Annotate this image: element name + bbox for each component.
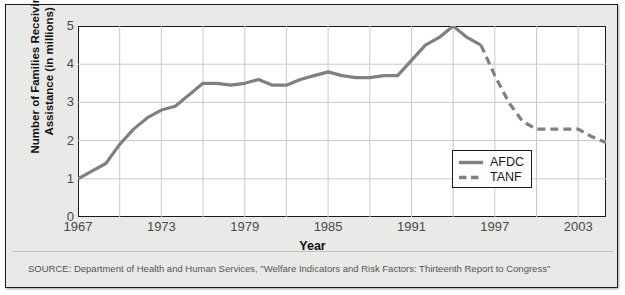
chart-panel: Number of Families Receiving Assistance … xyxy=(5,4,618,288)
y-tick-label: 5 xyxy=(48,19,74,32)
x-tick-label: 1979 xyxy=(230,220,259,233)
y-tick-label: 1 xyxy=(48,172,74,185)
y-axis-title-line1: Number of Families Receiving xyxy=(29,0,41,154)
x-tick-label: 1991 xyxy=(397,220,426,233)
y-tick-label: 3 xyxy=(48,95,74,108)
x-tick-label: 1997 xyxy=(480,220,509,233)
y-axis-tick-labels: 543210 xyxy=(46,26,74,217)
legend-swatch-tanf xyxy=(458,172,484,183)
legend-item-tanf: TANF xyxy=(458,170,526,185)
source-divider xyxy=(12,251,613,252)
y-tick-label: 4 xyxy=(48,57,74,70)
chart-figure: Number of Families Receiving Assistance … xyxy=(0,0,625,295)
legend-label-afdc: AFDC xyxy=(490,156,524,169)
legend-item-afdc: AFDC xyxy=(458,155,526,170)
legend-label-tanf: TANF xyxy=(490,171,522,184)
source-note: SOURCE: Department of Health and Human S… xyxy=(28,263,608,274)
x-axis-tick-labels: 1967197319791985199119972003 xyxy=(78,220,606,240)
x-tick-label: 1973 xyxy=(147,220,176,233)
series-line-tanf xyxy=(481,45,606,142)
x-tick-label: 1985 xyxy=(314,220,343,233)
data-series-layer xyxy=(78,26,606,217)
x-tick-label: 2003 xyxy=(564,220,593,233)
series-line-afdc xyxy=(78,26,481,179)
plot-area xyxy=(78,26,606,217)
x-tick-label: 1967 xyxy=(64,220,93,233)
y-tick-label: 2 xyxy=(48,134,74,147)
legend-swatch-afdc xyxy=(458,157,484,168)
chart-legend: AFDC TANF xyxy=(452,150,532,188)
